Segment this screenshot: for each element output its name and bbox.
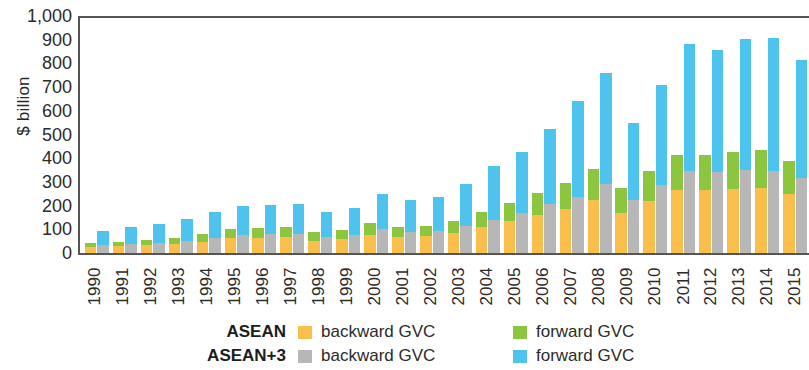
x-tick-group: 2002	[417, 257, 445, 319]
bar-asean-2011	[671, 155, 683, 253]
bar-aseanplus3-2000	[377, 194, 389, 253]
legend-group-name: ASEAN+3	[186, 346, 298, 366]
x-tick-2012: 2012	[703, 268, 720, 306]
x-tick-2003: 2003	[451, 268, 468, 306]
segment-backward-aplus	[153, 243, 165, 253]
segment-backward-asean	[85, 247, 97, 253]
segment-forward-asean	[448, 221, 460, 234]
segment-backward-asean	[727, 189, 739, 253]
segment-backward-asean	[643, 201, 655, 253]
x-tick-1999: 1999	[339, 268, 356, 306]
y-tick-300: 300	[42, 173, 72, 191]
segment-backward-aplus	[712, 172, 724, 253]
bar-asean-2006	[532, 193, 544, 253]
bar-asean-2009	[615, 188, 627, 253]
bar-asean-2005	[504, 203, 516, 253]
x-tick-2004: 2004	[479, 268, 496, 306]
segment-backward-aplus	[405, 232, 417, 253]
segment-forward-aplus	[265, 205, 277, 234]
bar-group	[390, 18, 418, 253]
bar-asean-1996	[252, 228, 264, 253]
y-tick-0: 0	[62, 244, 72, 262]
x-axis-tick-labels: 1990199119921993199419951996199719981999…	[78, 257, 809, 319]
plot-area	[78, 16, 809, 255]
segment-forward-asean	[783, 161, 795, 194]
segment-forward-asean	[308, 232, 320, 240]
bar-group	[669, 18, 697, 253]
x-tick-2011: 2011	[675, 268, 692, 305]
x-tick-group: 2010	[641, 257, 669, 319]
x-tick-group: 2004	[473, 257, 501, 319]
segment-forward-aplus	[740, 39, 752, 171]
segment-forward-asean	[504, 203, 516, 221]
bar-aseanplus3-1991	[125, 227, 137, 253]
segment-backward-aplus	[516, 213, 528, 253]
segment-backward-aplus	[377, 229, 389, 253]
chart-legend: ASEANbackward GVCforward GVCASEAN+3backw…	[186, 320, 746, 368]
bar-aseanplus3-2004	[488, 166, 500, 253]
legend-swatch-forward-asean-icon	[513, 326, 527, 339]
y-tick-1000: 1,000	[27, 7, 72, 25]
bar-group	[697, 18, 725, 253]
segment-forward-asean	[225, 229, 237, 238]
x-tick-1994: 1994	[199, 268, 216, 306]
legend-label: forward GVC	[536, 346, 634, 366]
segment-forward-aplus	[293, 204, 305, 234]
legend-entry[interactable]: forward GVC	[513, 346, 634, 366]
y-tick-600: 600	[42, 102, 72, 120]
x-tick-group: 2012	[697, 257, 725, 319]
x-tick-2000: 2000	[367, 268, 384, 306]
bar-group	[474, 18, 502, 253]
legend-row-aseanplus3: ASEAN+3backward GVCforward GVC	[186, 344, 746, 368]
segment-forward-aplus	[768, 38, 780, 171]
segment-forward-aplus	[181, 219, 193, 242]
x-tick-2013: 2013	[731, 268, 748, 306]
segment-forward-aplus	[572, 101, 584, 197]
x-tick-1997: 1997	[283, 268, 300, 306]
segment-forward-aplus	[153, 224, 165, 243]
bar-aseanplus3-2011	[684, 44, 696, 253]
legend-swatch-backward-aplus-icon	[298, 350, 312, 363]
x-tick-1992: 1992	[143, 268, 160, 306]
x-tick-group: 2011	[669, 257, 697, 319]
x-tick-group: 1996	[249, 257, 277, 319]
bar-group	[725, 18, 753, 253]
segment-forward-asean	[420, 226, 432, 237]
legend-row-asean: ASEANbackward GVCforward GVC	[186, 320, 746, 344]
bar-aseanplus3-2009	[628, 123, 640, 253]
bar-aseanplus3-1996	[265, 205, 277, 253]
x-tick-group: 2003	[445, 257, 473, 319]
legend-entry[interactable]: backward GVC	[298, 322, 513, 342]
x-tick-group: 1993	[165, 257, 193, 319]
bar-asean-2000	[364, 223, 376, 253]
bar-aseanplus3-2001	[405, 200, 417, 253]
segment-backward-asean	[476, 227, 488, 253]
segment-backward-aplus	[684, 171, 696, 253]
segment-forward-asean	[643, 171, 655, 201]
y-tick-800: 800	[42, 54, 72, 72]
segment-forward-aplus	[796, 60, 808, 179]
x-tick-group: 1995	[221, 257, 249, 319]
bar-aseanplus3-1994	[209, 212, 221, 253]
bar-asean-1993	[169, 238, 181, 253]
x-tick-2006: 2006	[535, 268, 552, 306]
segment-backward-aplus	[740, 170, 752, 253]
bar-aseanplus3-2006	[544, 129, 556, 253]
segment-forward-asean	[197, 234, 209, 242]
segment-forward-asean	[392, 227, 404, 237]
segment-backward-asean	[532, 215, 544, 253]
segment-forward-asean	[364, 223, 376, 234]
segment-backward-asean	[364, 235, 376, 253]
legend-entry[interactable]: forward GVC	[513, 322, 634, 342]
bar-aseanplus3-2013	[740, 39, 752, 253]
segment-forward-aplus	[656, 85, 668, 186]
segment-backward-aplus	[293, 234, 305, 253]
bar-group	[306, 18, 334, 253]
x-tick-1996: 1996	[255, 268, 272, 306]
x-tick-1995: 1995	[227, 268, 244, 306]
bar-aseanplus3-1990	[97, 231, 109, 254]
legend-entry[interactable]: backward GVC	[298, 346, 513, 366]
segment-forward-asean	[336, 230, 348, 239]
segment-forward-aplus	[349, 208, 361, 235]
segment-backward-aplus	[572, 197, 584, 253]
